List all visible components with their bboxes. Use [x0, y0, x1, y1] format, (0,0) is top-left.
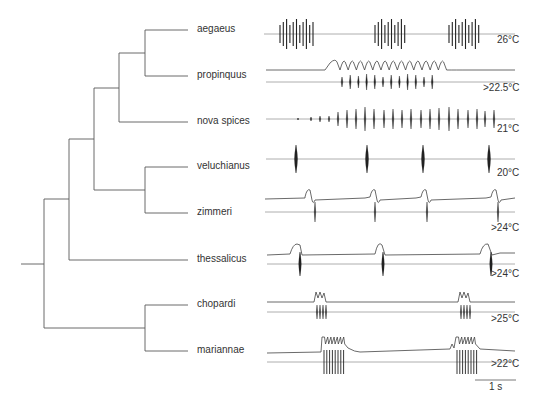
temperature-label-chopardi: >25°C [491, 313, 519, 325]
oscillogram-thessalicus [267, 244, 515, 276]
oscillogram-chopardi [267, 292, 515, 319]
song-oscillograms [264, 19, 515, 374]
species-label-thessalicus: thessalicus [197, 253, 246, 265]
temperature-label-propinquus: >22.5°C [483, 82, 520, 94]
temperature-label-veluchianus: 20°C [497, 167, 519, 179]
oscillogram-zimmeri [265, 190, 515, 222]
phylogenetic-tree [21, 30, 188, 351]
temperature-label-aegaeus: 26°C [497, 34, 519, 46]
species-label-propinquus: propinquus [197, 69, 246, 81]
species-label-veluchianus: veluchianus [197, 160, 250, 172]
species-label-zimmeri: zimmeri [197, 206, 232, 218]
oscillogram-mariannae [267, 337, 515, 374]
temperature-label-mariannae: >22°C [491, 358, 519, 370]
scale-bar-label: 1 s [489, 381, 502, 393]
temperature-label-thessalicus: >24°C [491, 268, 519, 280]
phylogeny-figure [0, 0, 541, 413]
oscillogram-veluchianus [266, 145, 515, 173]
oscillogram-nova-spices [266, 107, 515, 131]
species-label-mariannae: mariannae [197, 344, 244, 356]
temperature-label-zimmeri: >24°C [491, 222, 519, 234]
species-label-aegaeus: aegaeus [197, 23, 235, 35]
oscillogram-aegaeus [264, 19, 515, 49]
species-label-nova-spices: nova spices [197, 115, 250, 127]
species-label-chopardi: chopardi [197, 298, 235, 310]
oscillogram-propinquus [266, 60, 515, 90]
temperature-label-nova-spices: 21°C [497, 123, 519, 135]
